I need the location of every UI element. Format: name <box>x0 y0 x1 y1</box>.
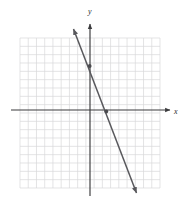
x-axis-label: x <box>174 108 178 116</box>
plotted-point-x-intercept <box>104 110 108 114</box>
coordinate-plane <box>0 0 183 201</box>
plotted-point-y-intercept <box>88 64 92 68</box>
y-axis-label: y <box>88 8 92 16</box>
graph-figure: y x <box>0 0 183 201</box>
